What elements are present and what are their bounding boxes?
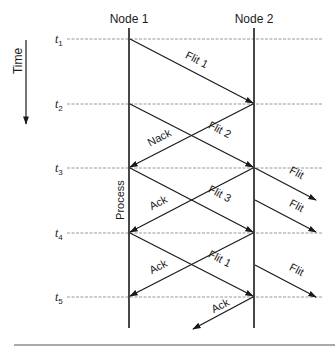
process-label: Process — [114, 180, 126, 220]
label-flit1: Flit 1 — [184, 49, 211, 71]
time-label-t2: t2 — [55, 97, 63, 113]
arrow-flit-out-2 — [255, 200, 316, 232]
time-labels: t1 t2 t3 t4 t5 — [55, 32, 63, 306]
label-flit3: Flit 3 — [207, 183, 234, 205]
label-ack-1: Ack — [147, 193, 169, 212]
time-label-t1: t1 — [55, 32, 63, 48]
time-label-t4: t4 — [55, 226, 63, 242]
label-ack-3: Ack — [209, 296, 231, 315]
arrow-flit-out-1 — [255, 168, 316, 200]
label-flit1-resend: Flit 1 — [207, 248, 234, 270]
time-axis-label: Time — [11, 48, 25, 75]
node2-label: Node 2 — [235, 12, 274, 26]
time-label-t5: t5 — [55, 290, 63, 306]
arrow-flit-out-3 — [255, 265, 316, 297]
time-axis: Time — [11, 40, 26, 124]
label-flit-out-2: Flit — [288, 197, 307, 214]
arrow-flit1 — [130, 39, 253, 103]
time-label-t3: t3 — [55, 161, 63, 177]
label-flit-out-1: Flit — [288, 164, 307, 181]
node1-label: Node 1 — [110, 12, 149, 26]
flit-timing-diagram: Time t1 t2 t3 t4 t5 Node 1 Node 2 — [0, 0, 335, 349]
label-flit-out-3: Flit — [288, 261, 307, 278]
time-gridlines — [67, 39, 322, 297]
label-nack: Nack — [145, 126, 173, 148]
label-flit2: Flit 2 — [207, 119, 234, 141]
message-arrows — [130, 39, 316, 329]
label-ack-2: Ack — [147, 257, 169, 276]
